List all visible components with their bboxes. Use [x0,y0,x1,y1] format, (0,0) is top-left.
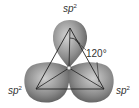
nucleus [67,66,71,70]
label-sp2-top: sp2 [63,3,77,14]
label-base: sp [8,85,19,96]
label-superscript: 2 [127,85,130,91]
label-superscript: 2 [19,85,22,91]
label-superscript: 2 [74,3,77,9]
angle-label: 120° [86,49,107,59]
label-base: sp [63,3,74,14]
label-sp2-left: sp2 [8,85,22,96]
label-base: sp [116,85,127,96]
orbital-lobe-right [68,62,113,102]
label-sp2-right: sp2 [116,85,130,96]
